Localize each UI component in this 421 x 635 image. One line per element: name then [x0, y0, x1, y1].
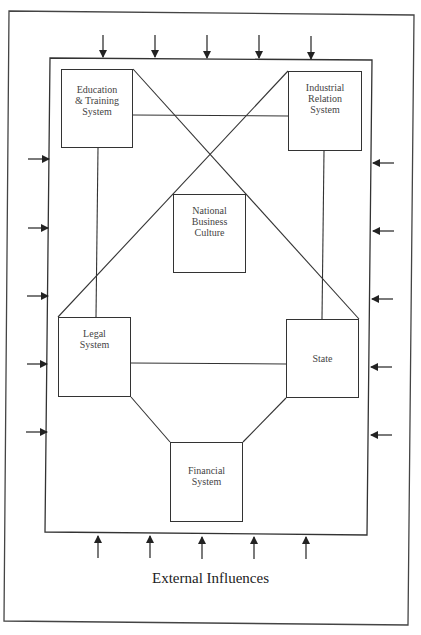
edge-legal-state [131, 363, 286, 364]
edge-industrial-state [322, 151, 324, 319]
node-education-training-system: Education & Training System [61, 69, 133, 148]
bottom-arrows [98, 536, 306, 559]
node-label: National Business Culture [174, 205, 245, 238]
edge-state-financial [243, 398, 286, 442]
node-industrial-relation-system: Industrial Relation System [288, 71, 362, 151]
diagram-canvas: Education & Training System Industrial R… [0, 0, 421, 635]
node-national-business-culture: National Business Culture [173, 194, 246, 273]
node-label: Industrial Relation System [289, 82, 361, 115]
node-label: Legal System [59, 328, 130, 350]
node-financial-system: Financial System [170, 442, 243, 522]
left-arrows [26, 159, 49, 432]
external-influences-caption: External Influences [0, 570, 421, 587]
node-label: Education & Training System [62, 84, 132, 117]
edge-legal-financial [131, 397, 170, 442]
node-label: Financial System [171, 465, 242, 487]
node-label: State [287, 353, 358, 364]
right-arrows [371, 163, 394, 435]
node-legal-system: Legal System [58, 317, 131, 397]
node-state: State [286, 319, 359, 398]
edge-education-legal [96, 148, 98, 317]
top-arrows [103, 35, 311, 59]
edge-education-industrial [133, 115, 288, 116]
